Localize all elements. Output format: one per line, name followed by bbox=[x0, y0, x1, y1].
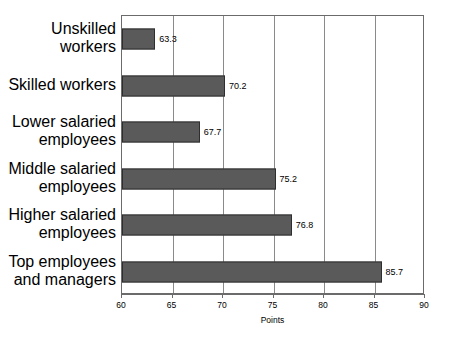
x-tick-mark bbox=[424, 294, 425, 298]
category-label: Skilled workers bbox=[0, 76, 116, 94]
plot-area: 63.370.267.775.276.885.7 bbox=[121, 15, 424, 294]
bar-row: 63.3 bbox=[122, 16, 423, 63]
x-tick-mark bbox=[273, 294, 274, 298]
bar[interactable] bbox=[122, 122, 200, 143]
category-label-slot: Skilled workers bbox=[0, 62, 121, 109]
category-label: Middle salaried employees bbox=[0, 160, 116, 196]
bar-value-label: 75.2 bbox=[280, 174, 298, 184]
category-label-slot: Lower salaried employees bbox=[0, 108, 121, 155]
x-tick-label: 60 bbox=[116, 300, 125, 310]
bar-row: 76.8 bbox=[122, 202, 423, 249]
bar-value-label: 63.3 bbox=[159, 34, 177, 44]
category-label: Unskilled workers bbox=[0, 20, 116, 56]
bar[interactable] bbox=[122, 75, 225, 96]
x-tick-mark bbox=[222, 294, 223, 298]
x-tick-mark bbox=[172, 294, 173, 298]
category-label: Higher salaried employees bbox=[0, 206, 116, 242]
category-label-slot: Higher salaried employees bbox=[0, 201, 121, 248]
x-tick-label: 70 bbox=[217, 300, 226, 310]
bar[interactable] bbox=[122, 215, 292, 236]
bar-row: 70.2 bbox=[122, 63, 423, 110]
bar[interactable] bbox=[122, 168, 276, 189]
category-axis-labels: Unskilled workersSkilled workersLower sa… bbox=[0, 15, 121, 294]
bar-row: 85.7 bbox=[122, 249, 423, 296]
x-tick-mark bbox=[374, 294, 375, 298]
x-tick-label: 85 bbox=[369, 300, 378, 310]
bar-value-label: 67.7 bbox=[204, 127, 222, 137]
bar-row: 75.2 bbox=[122, 156, 423, 203]
category-label-slot: Middle salaried employees bbox=[0, 155, 121, 202]
x-tick-label: 75 bbox=[268, 300, 277, 310]
x-tick-mark bbox=[121, 294, 122, 298]
bar[interactable] bbox=[122, 261, 382, 282]
bar-row: 67.7 bbox=[122, 109, 423, 156]
x-axis-title: Points bbox=[121, 315, 424, 325]
category-label-slot: Top employees and managers bbox=[0, 248, 121, 295]
x-tick-label: 90 bbox=[419, 300, 428, 310]
x-tick-label: 65 bbox=[167, 300, 176, 310]
bar-value-label: 85.7 bbox=[386, 267, 404, 277]
x-tick-label: 80 bbox=[318, 300, 327, 310]
category-label: Lower salaried employees bbox=[0, 113, 116, 149]
category-label-slot: Unskilled workers bbox=[0, 15, 121, 62]
category-label: Top employees and managers bbox=[0, 253, 116, 289]
bar-value-label: 76.8 bbox=[296, 220, 314, 230]
x-tick-mark bbox=[323, 294, 324, 298]
bar-value-label: 70.2 bbox=[229, 81, 247, 91]
bar-chart: Unskilled workersSkilled workersLower sa… bbox=[0, 0, 463, 337]
bar[interactable] bbox=[122, 29, 155, 50]
